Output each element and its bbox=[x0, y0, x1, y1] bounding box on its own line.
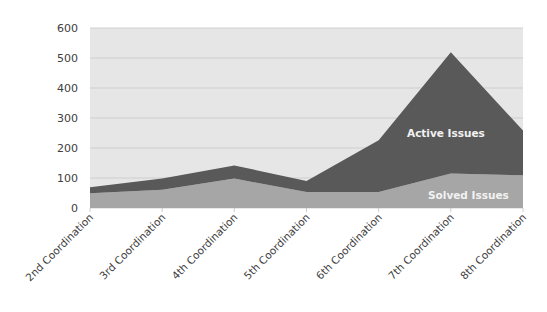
x-tick-label: 6th Coordination bbox=[313, 211, 384, 282]
x-tick-label: 5th Coordination bbox=[241, 211, 312, 282]
y-tick-label: 300 bbox=[57, 112, 78, 125]
y-tick-label: 100 bbox=[57, 172, 78, 185]
y-tick-label: 0 bbox=[71, 202, 78, 215]
y-tick-label: 600 bbox=[57, 22, 78, 35]
y-tick-label: 500 bbox=[57, 52, 78, 65]
x-tick-label: 4th Coordination bbox=[169, 211, 240, 282]
stacked-area-chart: 0100200300400500600 2nd Coordination3rd … bbox=[0, 0, 547, 312]
active-issues-label: Active Issues bbox=[407, 127, 485, 139]
y-tick-label: 400 bbox=[57, 82, 78, 95]
x-tick-label: 2nd Coordination bbox=[23, 211, 95, 283]
solved-issues-label: Solved Issues bbox=[428, 189, 509, 201]
x-axis-ticks: 2nd Coordination3rd Coordination4th Coor… bbox=[23, 208, 528, 283]
x-tick-label: 3rd Coordination bbox=[97, 211, 168, 282]
y-tick-label: 200 bbox=[57, 142, 78, 155]
y-axis-ticks: 0100200300400500600 bbox=[57, 22, 78, 215]
x-tick-label: 7th Coordination bbox=[386, 211, 457, 282]
x-tick-label: 8th Coordination bbox=[458, 211, 529, 282]
